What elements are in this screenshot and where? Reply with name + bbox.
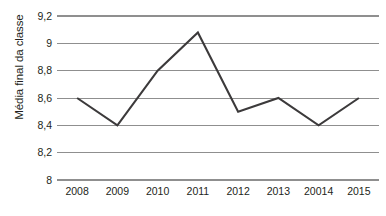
y-axis-tick-labels: 9,298,88,68,48,28 bbox=[18, 0, 52, 216]
x-axis-tick-label: 2010 bbox=[146, 185, 169, 197]
x-axis-tick-label: 2009 bbox=[106, 185, 129, 197]
line-chart: Média final da classe 9,298,88,68,48,28 … bbox=[0, 0, 386, 216]
plot-area bbox=[57, 16, 379, 180]
y-axis-tick-label: 8,4 bbox=[18, 120, 52, 130]
y-axis-tick-label: 8,8 bbox=[18, 65, 52, 75]
x-axis-tick-label: 2013 bbox=[267, 185, 290, 197]
x-axis-tick-label: 2012 bbox=[226, 185, 249, 197]
x-axis-tick-labels: 200820092010201120122013200142015 bbox=[57, 185, 379, 203]
x-axis-tick-label: 2015 bbox=[347, 185, 370, 197]
y-axis-tick-label: 9,2 bbox=[18, 11, 52, 21]
y-axis-tick-label: 8,6 bbox=[18, 93, 52, 103]
x-axis-tick-label: 2011 bbox=[187, 185, 210, 197]
y-axis-tick-label: 8,2 bbox=[18, 147, 52, 157]
y-axis-tick-label: 8 bbox=[18, 175, 52, 185]
data-series-line bbox=[57, 16, 379, 180]
series-polyline bbox=[77, 32, 359, 125]
x-axis-tick-label: 20014 bbox=[304, 185, 333, 197]
x-axis-tick-label: 2008 bbox=[65, 185, 88, 197]
y-axis-tick-label: 9 bbox=[18, 38, 52, 48]
